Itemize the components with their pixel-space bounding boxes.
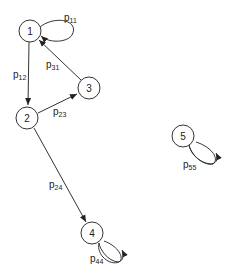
edge-label-p12: p12: [13, 69, 26, 81]
edge-label-p55: p55: [183, 159, 196, 171]
edge-label-p11: p11: [64, 12, 77, 24]
edge-1-1: [40, 20, 74, 41]
node-label: 2: [24, 113, 30, 124]
edge-label-p24: p24: [49, 179, 62, 191]
state-diagram: 1 2 3 4 5 p11 p12 p31 p23 p24 p44 p55: [0, 0, 232, 279]
edge-label-p31: p31: [46, 59, 59, 71]
node-label: 1: [27, 26, 33, 37]
node-3: 3: [78, 77, 100, 99]
edge-1-2: [28, 42, 29, 105]
edge-label-p23: p23: [53, 106, 66, 118]
node-label: 5: [180, 131, 186, 142]
edge-5-5-arrowhead: [189, 145, 217, 164]
node-4: 4: [81, 222, 103, 244]
node-label: 3: [86, 83, 92, 94]
node-label: 4: [89, 228, 95, 239]
edge-2-4: [34, 128, 86, 222]
node-1: 1: [19, 20, 41, 42]
node-5: 5: [172, 125, 194, 147]
node-2: 2: [16, 107, 38, 129]
